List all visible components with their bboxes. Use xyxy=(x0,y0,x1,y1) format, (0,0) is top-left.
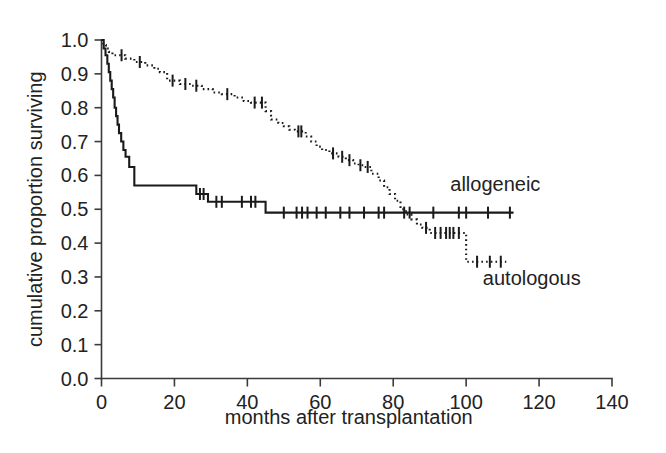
curves-group xyxy=(102,40,514,262)
censor-marks-group xyxy=(122,49,510,267)
y-tick-label: 0.7 xyxy=(61,131,89,153)
y-tick-label: 0.4 xyxy=(61,232,89,254)
y-tick-label: 0.8 xyxy=(61,97,89,119)
x-tick-label: 120 xyxy=(522,391,555,413)
y-tick-label: 0.2 xyxy=(61,300,89,322)
y-tick-label: 0.6 xyxy=(61,164,89,186)
axis-titles-group: months after transplantationcumulative p… xyxy=(24,71,473,428)
tick-labels-group: 0.00.10.20.30.40.50.60.70.80.91.00204060… xyxy=(61,29,629,413)
survival-chart-figure: 0.00.10.20.30.40.50.60.70.80.91.00204060… xyxy=(0,0,666,453)
y-tick-label: 0.1 xyxy=(61,334,89,356)
series-annotations-group: allogeneicautologous xyxy=(450,173,580,290)
x-axis-title: months after transplantation xyxy=(225,406,473,428)
x-tick-label: 140 xyxy=(595,391,628,413)
y-tick-label: 0.3 xyxy=(61,266,89,288)
series-label-autologous: autologous xyxy=(483,267,581,289)
x-tick-label: 20 xyxy=(163,391,185,413)
y-tick-label: 0.9 xyxy=(61,63,89,85)
plot-canvas: 0.00.10.20.30.40.50.60.70.80.91.00204060… xyxy=(0,0,666,453)
x-tick-label: 0 xyxy=(96,391,107,413)
series-label-allogeneic: allogeneic xyxy=(450,173,540,195)
y-axis-title: cumulative proportion surviving xyxy=(24,71,46,347)
y-tick-label: 1.0 xyxy=(61,29,89,51)
y-tick-label: 0.5 xyxy=(61,198,89,220)
y-tick-label: 0.0 xyxy=(61,368,89,390)
